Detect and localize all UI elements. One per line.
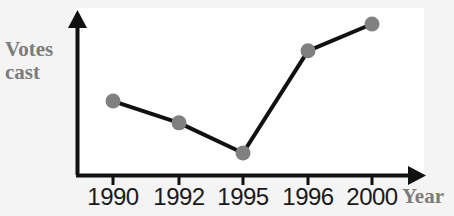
data-point-marker <box>236 146 251 161</box>
x-axis-title: Year <box>402 185 444 208</box>
y-axis-title-line-2: cast <box>5 61 53 84</box>
x-tick-label-1990: 1990 <box>83 184 143 210</box>
data-point-marker <box>301 43 316 58</box>
data-point-marker <box>365 17 380 32</box>
arrow-up-icon <box>68 10 87 28</box>
line-chart-figure: Votes cast Year 1990 1992 1995 1996 2000 <box>0 0 454 216</box>
data-point-marker <box>106 94 121 109</box>
data-point-marker <box>172 115 187 130</box>
x-tick-label-1992: 1992 <box>149 184 209 210</box>
y-axis-title: Votes cast <box>5 38 53 84</box>
y-axis-title-line-1: Votes <box>5 38 53 61</box>
data-series-line <box>113 24 372 153</box>
x-tick-label-2000: 2000 <box>342 184 402 210</box>
arrow-right-icon <box>408 166 426 185</box>
x-tick-label-1996: 1996 <box>278 184 338 210</box>
x-tick-label-1995: 1995 <box>213 184 273 210</box>
